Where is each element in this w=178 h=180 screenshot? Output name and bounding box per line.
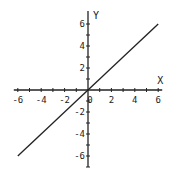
- y-tick-label: -2: [74, 107, 85, 117]
- y-tick-label: 2: [80, 63, 85, 73]
- axes: [14, 11, 162, 167]
- x-tick-label: -6: [12, 95, 23, 105]
- x-tick-label: -2: [59, 95, 70, 105]
- x-tick-label: 0: [87, 95, 92, 105]
- x-tick-label: -4: [36, 95, 47, 105]
- x-tick-label: 2: [109, 95, 114, 105]
- y-tick-label: 6: [80, 19, 85, 29]
- y-axis-label: Y: [93, 10, 99, 21]
- y-tick-label: -4: [74, 129, 85, 139]
- x-tick-label: 6: [155, 95, 160, 105]
- chart: -6-4-20246642-2-4-6 X Y: [0, 0, 178, 180]
- y-tick-label: 4: [80, 41, 85, 51]
- x-tick-label: 4: [132, 95, 137, 105]
- x-axis-label: X: [157, 75, 163, 86]
- y-tick-label: -6: [74, 151, 85, 161]
